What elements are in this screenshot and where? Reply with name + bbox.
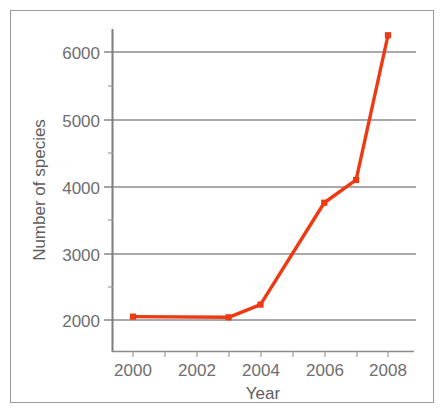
ytick-label-3000: 3000 xyxy=(62,246,100,265)
data-point xyxy=(321,200,327,206)
xtick-label-2002: 2002 xyxy=(178,361,216,380)
xtick-label-2008: 2008 xyxy=(369,361,407,380)
ytick-label-2000: 2000 xyxy=(62,312,100,331)
y-axis-title: Number of species xyxy=(30,119,49,261)
series-line xyxy=(133,35,388,317)
xtick-label-2004: 2004 xyxy=(242,361,280,380)
chart-figure: 6000 5000 4000 3000 2000 2000 2002 2004 … xyxy=(0,0,446,413)
data-series xyxy=(130,32,391,320)
line-chart: 6000 5000 4000 3000 2000 2000 2002 2004 … xyxy=(0,0,446,413)
data-point xyxy=(385,32,391,38)
data-point xyxy=(226,314,232,320)
data-point xyxy=(257,301,263,307)
ytick-label-4000: 4000 xyxy=(62,179,100,198)
data-point xyxy=(353,177,359,183)
ytick-label-6000: 6000 xyxy=(62,44,100,63)
x-axis-title: Year xyxy=(246,384,281,403)
ytick-label-5000: 5000 xyxy=(62,112,100,131)
xtick-label-2000: 2000 xyxy=(114,361,152,380)
series-markers xyxy=(130,32,391,320)
xtick-label-2006: 2006 xyxy=(306,361,344,380)
gridlines xyxy=(113,52,416,320)
data-point xyxy=(130,314,136,320)
